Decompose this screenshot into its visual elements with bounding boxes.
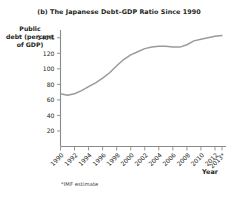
x-tick-label: 1992 <box>63 151 79 167</box>
figure-panel: (b) The Japanese Debt–GDP Ratio Since 19… <box>0 0 238 202</box>
x-tick-label: 2006 <box>161 151 177 167</box>
y-tick-label: 40 <box>47 112 55 119</box>
y-tick-label: 100 <box>43 65 55 72</box>
x-tick-label: 1998 <box>105 151 121 167</box>
y-tick-label: 120 <box>43 50 55 57</box>
y-tick-label: 20 <box>47 127 55 134</box>
debt-ratio-line <box>61 35 223 95</box>
x-tick-label: 2008 <box>175 151 191 167</box>
footnote: *IMF estimate <box>61 181 98 187</box>
y-tick-label: 80 <box>47 81 55 88</box>
y-tick-label: 60 <box>47 96 55 103</box>
x-tick-label: 1990 <box>49 151 65 167</box>
y-tick-label: 140% <box>37 34 55 41</box>
x-tick-label: 2004 <box>147 151 163 167</box>
x-tick-group: 1990199219941996199820002002200420062008… <box>49 147 226 170</box>
y-tick-group: 140%12010080604020 <box>37 34 60 134</box>
x-tick-label: 1994 <box>77 151 93 167</box>
x-tick-label: 2000 <box>119 151 135 167</box>
x-axis-label: Year <box>188 168 232 176</box>
x-tick-label: 2010 <box>189 151 205 167</box>
x-tick-label: 1996 <box>91 151 107 167</box>
x-tick-label: 2002 <box>133 151 149 167</box>
